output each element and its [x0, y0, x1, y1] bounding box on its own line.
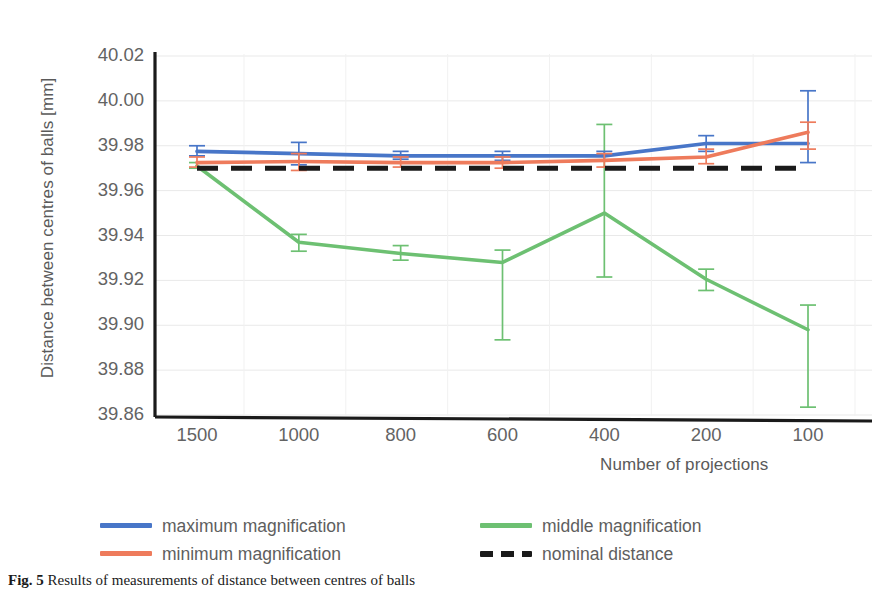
legend-swatch-minimum-magnification	[100, 542, 152, 566]
y-tick-label: 39.88	[58, 358, 144, 380]
y-tick-label: 39.90	[58, 313, 144, 335]
x-tick-label: 400	[564, 424, 644, 446]
legend-swatch-middle-magnification	[480, 514, 532, 538]
x-tick-label: 1500	[157, 424, 237, 446]
figure-caption: Fig. 5 Results of measurements of distan…	[8, 572, 872, 589]
y-axis-title: Distance between centres of balls [mm]	[38, 28, 58, 428]
x-axis-line	[155, 417, 872, 421]
legend-label-minimum-magnification: minimum magnification	[162, 544, 341, 565]
x-tick-label: 800	[361, 424, 441, 446]
figure-container: 40.0240.0039.9839.9639.9439.9239.9039.88…	[0, 0, 880, 591]
axis-lines	[155, 52, 872, 421]
legend-item-minimum-magnification: minimum magnification	[100, 542, 341, 566]
y-tick-label: 39.96	[58, 179, 144, 201]
legend-item-nominal-distance: nominal distance	[480, 542, 673, 566]
x-axis-title: Number of projections	[600, 455, 768, 475]
y-tick-label: 39.86	[58, 403, 144, 425]
legend-label-nominal-distance: nominal distance	[542, 544, 673, 565]
legend-swatch-nominal-distance	[480, 542, 532, 566]
x-tick-label: 100	[768, 424, 848, 446]
legend-swatch-maximum-magnification	[100, 514, 152, 538]
y-tick-label: 39.94	[58, 224, 144, 246]
chart-legend: maximum magnification minimum magnificat…	[100, 512, 800, 568]
legend-item-middle-magnification: middle magnification	[480, 514, 702, 538]
y-tick-label: 40.02	[58, 44, 144, 66]
x-tick-label: 1000	[259, 424, 339, 446]
legend-label-middle-magnification: middle magnification	[542, 516, 702, 537]
y-tick-label: 39.92	[58, 268, 144, 290]
x-tick-label: 600	[463, 424, 543, 446]
data-series-group	[189, 91, 816, 407]
figure-caption-text: Results of measurements of distance betw…	[48, 572, 415, 588]
x-tick-label: 200	[666, 424, 746, 446]
y-tick-label: 40.00	[58, 89, 144, 111]
legend-item-maximum-magnification: maximum magnification	[100, 514, 346, 538]
gridlines	[156, 56, 872, 415]
figure-caption-label: Fig. 5	[8, 572, 44, 588]
y-tick-label: 39.98	[58, 134, 144, 156]
legend-label-maximum-magnification: maximum magnification	[162, 516, 346, 537]
